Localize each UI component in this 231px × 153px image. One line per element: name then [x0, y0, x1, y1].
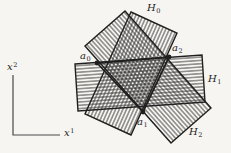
label-point-a2: a2 [172, 43, 183, 55]
label-point-a1: a1 [137, 117, 148, 129]
axis-x1-letter: x [64, 127, 70, 138]
diagram-canvas: H0 H1 H2 a0 a1 a2 x2 x1 [0, 0, 231, 153]
label-H0-subscript: 0 [156, 7, 160, 15]
label-H0-letter: H [147, 2, 156, 13]
label-halfplane-H0: H0 [147, 3, 160, 15]
point-a2-dot [167, 55, 172, 60]
coordinate-axes [13, 75, 60, 135]
axis-label-x2: x2 [7, 62, 17, 72]
point-a1-dot [141, 110, 146, 115]
axis-x2-superscript: 2 [13, 61, 17, 69]
label-H1-letter: H [208, 73, 217, 84]
label-a1-subscript: 1 [143, 121, 147, 129]
axis-label-x1: x1 [64, 128, 74, 138]
label-halfplane-H1: H1 [208, 74, 221, 86]
axis-x2-letter: x [7, 61, 13, 72]
label-a2-subscript: 2 [178, 47, 182, 55]
label-H2-subscript: 2 [198, 131, 202, 139]
label-H1-subscript: 1 [217, 78, 221, 86]
label-a0-subscript: 0 [86, 55, 90, 63]
label-H2-letter: H [189, 126, 198, 137]
label-halfplane-H2: H2 [189, 127, 202, 139]
axis-x1-superscript: 1 [70, 127, 74, 135]
label-point-a0: a0 [80, 51, 91, 63]
point-a0-dot [95, 61, 100, 66]
